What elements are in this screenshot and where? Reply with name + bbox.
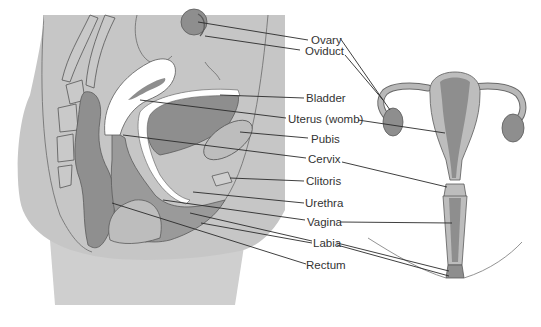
- label-cervix: Cervix: [308, 153, 341, 165]
- frontal-view: [368, 72, 524, 278]
- anatomy-diagram: Ovary Oviduct Bladder Uterus (womb) Pubi…: [0, 0, 541, 327]
- label-clitoris: Clitoris: [306, 175, 341, 187]
- label-urethra: Urethra: [305, 197, 343, 209]
- sagittal-section: [18, 9, 285, 305]
- label-uterus: Uterus (womb): [288, 113, 363, 125]
- label-labia: Labia: [313, 237, 341, 249]
- label-oviduct: Oviduct: [305, 45, 344, 57]
- label-vagina: Vagina: [307, 216, 342, 228]
- label-rectum: Rectum: [306, 259, 346, 271]
- ovary-right: [502, 114, 524, 142]
- label-pubis: Pubis: [311, 133, 340, 145]
- label-bladder: Bladder: [306, 92, 346, 104]
- ovary-left: [383, 108, 403, 136]
- thigh-outline-right: [464, 242, 522, 278]
